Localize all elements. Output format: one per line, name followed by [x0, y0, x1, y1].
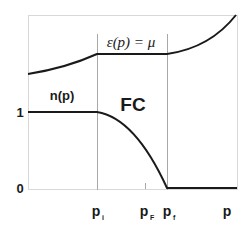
svg-text:p: p [140, 203, 149, 219]
region-label-fc: FC [120, 94, 146, 115]
occupation-label: n(p) [50, 88, 75, 103]
occupation-curve [28, 112, 237, 188]
y-tick-1: 1 [16, 105, 23, 120]
equation-label: ε(p) = μ [107, 34, 156, 51]
svg-text:F: F [150, 214, 155, 221]
svg-text:f: f [173, 214, 176, 221]
x-tick-pf: p f [163, 203, 176, 221]
svg-text:p: p [92, 203, 101, 219]
x-tick-pF: p F [140, 203, 155, 221]
x-axis-label: p [223, 203, 232, 219]
svg-text:i: i [102, 214, 104, 221]
x-tick-pi: p i [92, 203, 104, 221]
svg-text:p: p [163, 203, 172, 219]
y-tick-0: 0 [16, 181, 23, 196]
fermion-condensation-diagram: ε(p) = μ n(p) FC 1 0 p i p F p f p [0, 0, 249, 226]
